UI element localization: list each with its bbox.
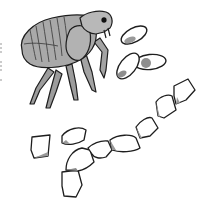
egg-1: [118, 22, 149, 48]
edge-dots: [0, 43, 2, 81]
larva: [31, 79, 195, 197]
flea-eye: [101, 17, 106, 23]
eggs: [112, 22, 166, 82]
flea-lifecycle-illustration: [0, 0, 208, 205]
adult-flea: [21, 11, 112, 108]
